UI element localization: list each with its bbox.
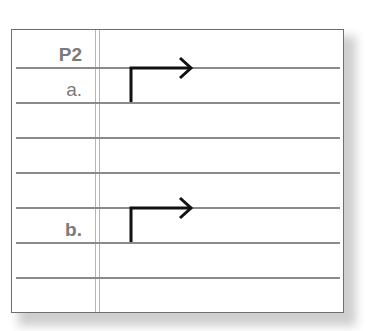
arrow-b-icon [0, 0, 366, 331]
